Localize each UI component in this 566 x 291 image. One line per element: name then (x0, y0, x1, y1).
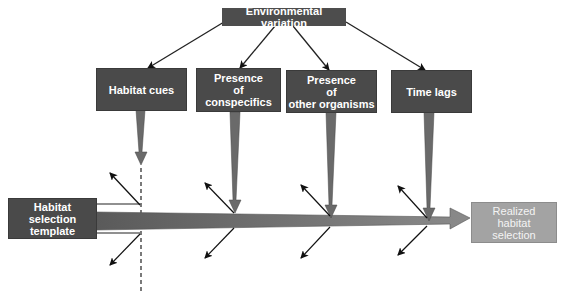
template-label-line: Habitat (34, 201, 71, 213)
arrow-title-to-time-lags (346, 22, 425, 70)
result-label-line: habitat (497, 217, 530, 229)
arrow-conspecifics-down (229, 112, 241, 213)
result-label-line: selection (492, 229, 535, 241)
diag-arrow-up-4 (398, 186, 427, 218)
factor-label-habitat-cues: Habitat cues (109, 84, 174, 96)
factor-label-line: of (326, 86, 336, 98)
factor-box-habitat-cues: Habitat cues (96, 68, 187, 111)
arrow-title-to-other-organisms (293, 26, 329, 70)
factor-label-line: of (233, 84, 243, 96)
diag-arrow-down-1 (110, 234, 140, 265)
arrow-time-lags-down (423, 112, 435, 221)
arrow-other-organisms-down (325, 112, 337, 218)
realized-habitat-selection-box: Realized habitat selection (471, 202, 557, 243)
result-label-line: Realized (493, 205, 536, 217)
environmental-variation-label: Environmental variation (222, 5, 346, 29)
factor-label-line: conspecifics (205, 96, 272, 108)
factor-box-time-lags: Time lags (391, 70, 472, 113)
factor-label-line: other organisms (288, 98, 374, 110)
template-label-line: selection (29, 213, 77, 225)
template-label-line: template (30, 225, 75, 237)
arrow-habitat-cues-down (135, 110, 147, 165)
diag-arrow-up-2 (205, 183, 234, 213)
main-flow-arrow (96, 208, 470, 230)
arrow-title-to-habitat-cues (148, 22, 224, 68)
diag-arrow-down-3 (301, 227, 330, 258)
factor-label-line: Presence (214, 72, 263, 84)
factor-label-line: Presence (307, 74, 356, 86)
environmental-variation-box: Environmental variation (222, 8, 346, 26)
diag-arrow-down-2 (205, 228, 234, 258)
diag-arrow-up-3 (301, 185, 330, 216)
arrow-title-to-conspecifics (240, 26, 275, 68)
diag-arrow-down-4 (398, 226, 427, 255)
factor-box-conspecifics: Presence of conspecifics (196, 68, 281, 112)
factor-box-other-organisms: Presence of other organisms (286, 70, 377, 113)
diagram-canvas (0, 0, 566, 291)
factor-label-time-lags: Time lags (406, 86, 457, 98)
habitat-selection-template-box: Habitat selection template (8, 198, 97, 239)
diag-arrow-up-1 (110, 173, 140, 205)
